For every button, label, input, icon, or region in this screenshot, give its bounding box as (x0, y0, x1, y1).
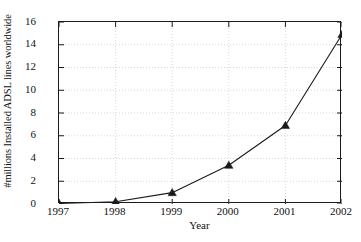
y-tick-label: 6 (0, 129, 36, 140)
data-point-marker (168, 188, 176, 195)
x-tick-label: 2000 (203, 205, 253, 218)
data-line (59, 35, 342, 204)
data-point-marker (281, 121, 289, 128)
y-tick-label: 10 (0, 84, 36, 95)
y-tick-label: 0 (0, 198, 36, 209)
chart-figure: #millions Installed ADSL lines worldwide… (0, 0, 361, 242)
plot-area (58, 21, 341, 203)
y-tick-label: 4 (0, 152, 36, 163)
data-point-markers (59, 30, 342, 204)
y-tick-label: 2 (0, 175, 36, 186)
x-tick-label: 1999 (146, 205, 196, 218)
y-tick-label: 14 (0, 38, 36, 49)
y-tick-label: 8 (0, 107, 36, 118)
plot-canvas (59, 22, 342, 204)
x-tick-label: 1997 (33, 205, 83, 218)
x-axis-title: Year (58, 219, 341, 232)
x-tick-label: 2002 (316, 205, 361, 218)
y-tick-label: 16 (0, 16, 36, 27)
y-tick-label: 12 (0, 61, 36, 72)
horizontal-gridlines (59, 45, 342, 182)
x-tick-label: 1998 (90, 205, 140, 218)
data-point-marker (225, 161, 233, 168)
x-tick-label: 2001 (259, 205, 309, 218)
data-point-marker (338, 30, 342, 37)
